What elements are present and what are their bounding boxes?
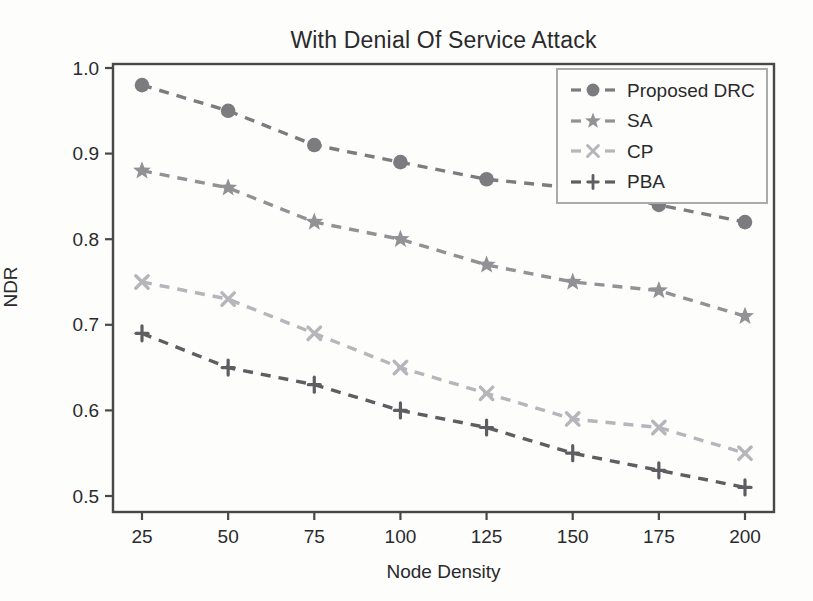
y-tick-label: 0.7 (73, 314, 99, 335)
legend-item-sa: SA (570, 111, 762, 131)
y-tick-label: 0.5 (73, 486, 99, 507)
legend-item-proposed-drc: Proposed DRC (570, 80, 762, 100)
circle-icon (570, 80, 616, 100)
legend: Proposed DRCSACPPBA (556, 68, 768, 204)
x-tick-label: 150 (557, 526, 589, 547)
y-tick-label: 1.0 (73, 58, 99, 79)
plus-icon (570, 172, 616, 192)
x-tick-label: 200 (729, 526, 761, 547)
legend-label: PBA (627, 172, 665, 191)
x-tick-label: 175 (643, 526, 675, 547)
x-tick-label: 50 (218, 526, 239, 547)
chart-figure: 2550751001251501752000.50.60.70.80.91.0 … (0, 0, 813, 601)
legend-label: CP (627, 142, 653, 161)
x-tick-label: 100 (385, 526, 417, 547)
legend-label: SA (627, 111, 652, 130)
legend-item-cp: CP (570, 141, 762, 161)
x-icon (570, 141, 616, 161)
legend-item-pba: PBA (570, 172, 762, 192)
x-tick-label: 25 (131, 526, 152, 547)
legend-label: Proposed DRC (627, 81, 755, 100)
star-icon (570, 111, 616, 131)
x-axis: 255075100125150175200 (131, 512, 760, 547)
y-tick-label: 0.6 (73, 400, 99, 421)
x-axis-label: Node Density (113, 561, 774, 583)
y-axis-label: NDR (0, 237, 22, 337)
series-pba (136, 326, 751, 495)
chart-title: With Denial Of Service Attack (113, 27, 774, 54)
y-axis: 0.50.60.70.80.91.0 (73, 58, 113, 507)
x-tick-label: 125 (471, 526, 503, 547)
y-tick-label: 0.8 (73, 229, 99, 250)
x-tick-label: 75 (304, 526, 325, 547)
y-tick-label: 0.9 (73, 143, 99, 164)
